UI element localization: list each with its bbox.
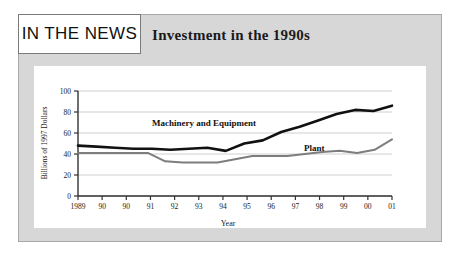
chart-card [34,66,426,228]
page-title: Investment in the 1990s [152,22,422,48]
screenshot-root: IN THE NEWS Investment in the 1990s 0204… [0,0,458,261]
in-the-news-tab: IN THE NEWS [18,14,141,54]
in-the-news-label: IN THE NEWS [22,24,138,44]
